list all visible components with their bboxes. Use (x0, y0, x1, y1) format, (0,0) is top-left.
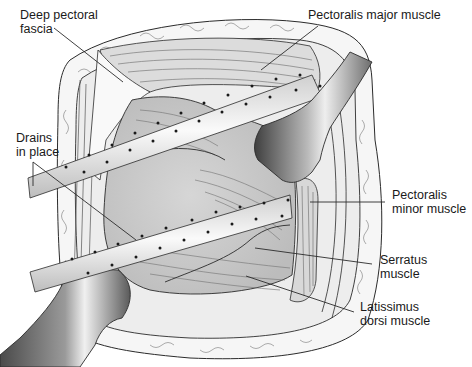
label-pectoralis-major: Pectoralis major muscle (308, 8, 441, 22)
label-line: Pectoralis (392, 188, 466, 202)
label-drains: Drains in place (16, 131, 59, 159)
label-line: Drains (16, 131, 59, 145)
label-line: Pectoralis major muscle (308, 8, 441, 22)
label-line: Deep pectoral (20, 8, 98, 22)
label-line: minor muscle (392, 202, 466, 216)
label-deep-pectoral-fascia: Deep pectoral fascia (20, 8, 98, 36)
label-line: Latissimus (360, 300, 430, 314)
label-serratus: Serratus muscle (380, 253, 427, 281)
label-line: fascia (20, 22, 98, 36)
surgical-diagram: Deep pectoral fascia Pectoralis major mu… (0, 0, 472, 367)
label-latissimus-dorsi: Latissimus dorsi muscle (360, 300, 430, 328)
label-pectoralis-minor: Pectoralis minor muscle (392, 188, 466, 216)
label-line: in place (16, 145, 59, 159)
label-line: muscle (380, 267, 427, 281)
label-line: Serratus (380, 253, 427, 267)
label-line: dorsi muscle (360, 314, 430, 328)
